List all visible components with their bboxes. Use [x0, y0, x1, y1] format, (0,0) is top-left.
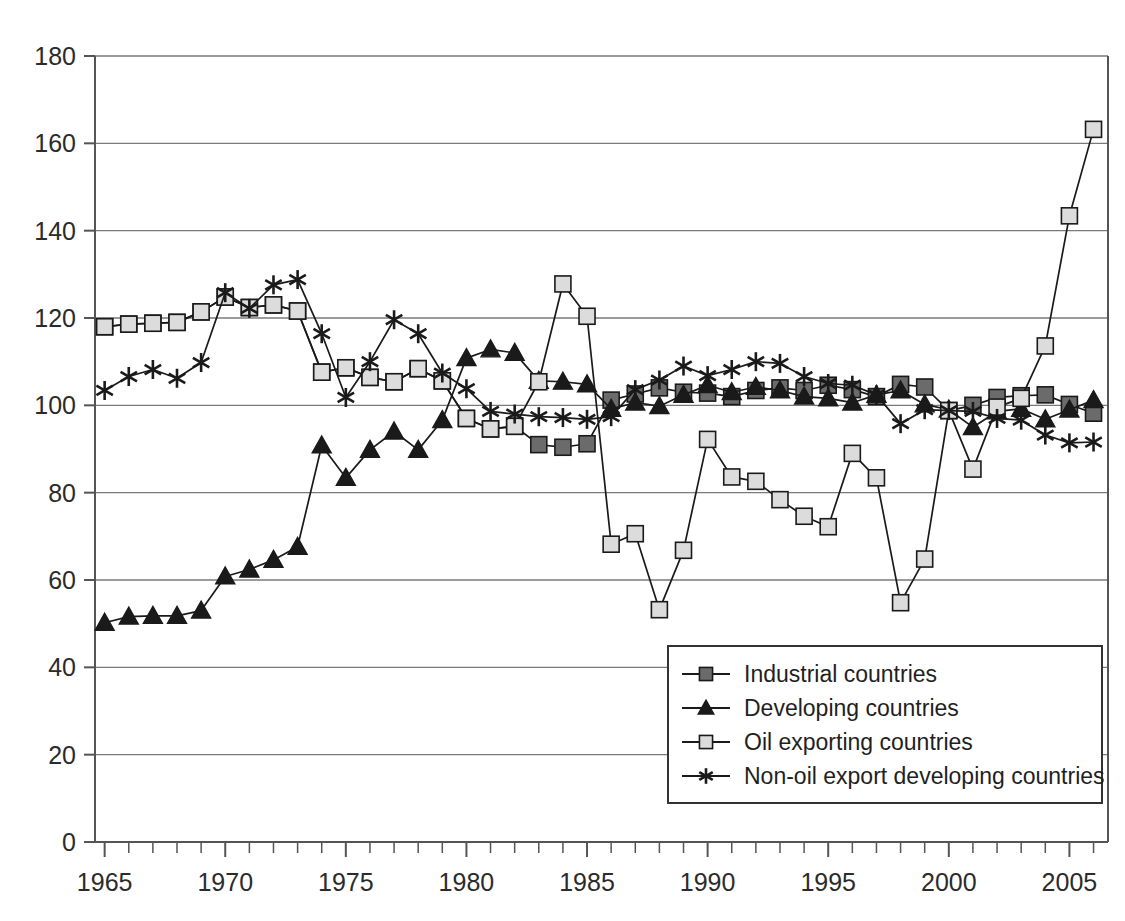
data-point-marker	[1086, 121, 1102, 137]
data-point-marker	[1036, 410, 1055, 427]
y-tick-label: 20	[48, 741, 76, 769]
x-tick-label: 1965	[77, 868, 133, 896]
data-series-layer	[95, 121, 1103, 630]
series-line	[105, 349, 1094, 622]
data-point-marker	[169, 314, 185, 330]
data-point-marker	[555, 439, 571, 455]
data-point-marker	[796, 508, 812, 524]
data-point-marker	[917, 379, 933, 395]
x-tick-label: 1980	[439, 868, 495, 896]
data-point-marker	[699, 667, 712, 680]
data-point-marker	[1013, 390, 1029, 406]
data-point-marker	[700, 431, 716, 447]
series-3	[97, 121, 1102, 617]
y-tick-label: 0	[62, 828, 76, 856]
data-point-marker	[1084, 391, 1103, 408]
data-point-marker	[362, 369, 378, 385]
y-tick-label: 60	[48, 566, 76, 594]
legend-label: Developing countries	[744, 695, 959, 721]
data-point-marker	[820, 519, 836, 535]
data-point-marker	[410, 361, 426, 377]
data-point-marker	[1037, 338, 1053, 354]
y-axis-ticks: 020406080100120140160180	[34, 42, 95, 856]
data-point-marker	[893, 595, 909, 611]
data-point-marker	[699, 735, 712, 748]
data-point-marker	[1037, 387, 1053, 403]
data-point-marker	[627, 526, 643, 542]
data-point-marker	[531, 374, 547, 390]
data-point-marker	[265, 297, 281, 313]
x-axis-ticks: 196519701975198019851990199520002005	[77, 842, 1097, 896]
y-tick-label: 180	[34, 42, 76, 70]
data-point-marker	[240, 560, 259, 577]
data-point-marker	[458, 410, 474, 426]
data-point-marker	[651, 602, 667, 618]
data-point-marker	[314, 364, 330, 380]
data-point-marker	[579, 308, 595, 324]
data-point-marker	[360, 440, 379, 457]
data-point-marker	[386, 374, 402, 390]
x-tick-label: 2005	[1042, 868, 1098, 896]
data-point-marker	[555, 276, 571, 292]
data-point-marker	[338, 360, 354, 376]
data-point-marker	[748, 473, 764, 489]
data-point-marker	[844, 445, 860, 461]
data-point-marker	[1061, 208, 1077, 224]
data-point-marker	[143, 606, 162, 623]
y-tick-label: 100	[34, 391, 76, 419]
data-point-marker	[193, 304, 209, 320]
legend-label: Industrial countries	[744, 661, 937, 687]
data-point-marker	[772, 492, 788, 508]
chart-legend: Industrial countriesDeveloping countries…	[668, 646, 1105, 803]
data-point-marker	[288, 537, 307, 554]
y-tick-label: 160	[34, 129, 76, 157]
data-point-marker	[121, 316, 137, 332]
data-point-marker	[483, 421, 499, 437]
data-point-marker	[457, 349, 476, 366]
x-tick-label: 1990	[680, 868, 736, 896]
series-line	[105, 129, 1094, 609]
data-point-marker	[192, 601, 211, 618]
y-tick-label: 140	[34, 217, 76, 245]
data-point-marker	[481, 340, 500, 357]
data-point-marker	[917, 551, 933, 567]
data-point-marker	[97, 319, 113, 335]
data-point-marker	[385, 422, 404, 439]
data-point-marker	[676, 542, 692, 558]
line-chart: 020406080100120140160180 196519701975198…	[0, 0, 1125, 921]
y-tick-label: 120	[34, 304, 76, 332]
data-point-marker	[433, 411, 452, 428]
data-point-marker	[603, 536, 619, 552]
chart-figure: 020406080100120140160180 196519701975198…	[0, 0, 1125, 921]
data-point-marker	[290, 303, 306, 319]
data-point-marker	[264, 550, 283, 567]
y-tick-label: 40	[48, 653, 76, 681]
data-point-marker	[579, 436, 595, 452]
legend-label: Non-oil export developing countries	[744, 763, 1105, 789]
data-point-marker	[724, 469, 740, 485]
x-tick-label: 1975	[318, 868, 374, 896]
x-tick-label: 1970	[197, 868, 253, 896]
data-point-marker	[145, 315, 161, 331]
y-tick-label: 80	[48, 479, 76, 507]
x-tick-label: 1985	[559, 868, 615, 896]
data-point-marker	[965, 461, 981, 477]
x-tick-label: 1995	[800, 868, 856, 896]
data-point-marker	[531, 437, 547, 453]
legend-entry-4[interactable]: Non-oil export developing countries	[682, 763, 1105, 789]
series-2	[95, 340, 1103, 630]
legend-label: Oil exporting countries	[744, 729, 973, 755]
data-point-marker	[868, 470, 884, 486]
x-tick-label: 2000	[921, 868, 977, 896]
data-point-marker	[312, 436, 331, 453]
